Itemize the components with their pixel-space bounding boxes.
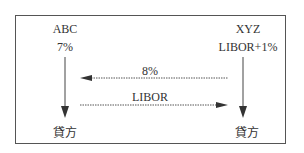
arrow-left-icon — [80, 75, 92, 81]
arrow-down-icon — [61, 106, 69, 118]
arrow-right-icon — [216, 102, 228, 108]
arrow-down-icon — [239, 106, 247, 118]
arrows — [0, 0, 304, 153]
